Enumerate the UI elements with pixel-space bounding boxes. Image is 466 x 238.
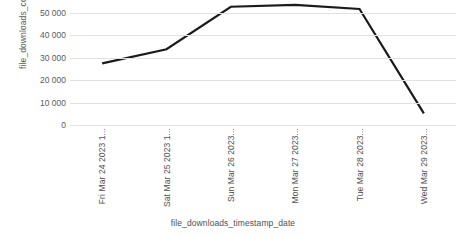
y-axis-tick-label: 0 bbox=[22, 121, 66, 130]
x-axis-tick-label: Wed Mar 29 2023... bbox=[419, 128, 429, 204]
y-axis-tick-label: 40 000 bbox=[22, 31, 66, 40]
x-axis-tick: Sun Mar 26 2023... bbox=[225, 125, 237, 213]
gridline bbox=[70, 35, 456, 36]
x-axis-tick: Wed Mar 29 2023... bbox=[418, 125, 430, 213]
gridline bbox=[70, 80, 456, 81]
y-axis-tick-label: 50 000 bbox=[22, 9, 66, 18]
x-axis-tick: Fri Mar 24 2023 1... bbox=[96, 125, 108, 213]
line-chart: file_downloads_count 010 00020 00030 000… bbox=[0, 0, 466, 238]
y-axis-tick-label: 30 000 bbox=[22, 54, 66, 63]
x-axis-tick-labels: Fri Mar 24 2023 1...Sat Mar 25 2023 1...… bbox=[70, 125, 456, 215]
y-axis-tick-labels: 010 00020 00030 00040 00050 000 bbox=[22, 0, 66, 238]
x-axis-tick-label: Sat Mar 25 2023 1... bbox=[162, 128, 172, 207]
series-line bbox=[70, 0, 456, 130]
x-axis-tick-label: Sun Mar 26 2023... bbox=[226, 128, 236, 202]
gridline bbox=[70, 13, 456, 14]
x-axis-tick-label: Fri Mar 24 2023 1... bbox=[97, 128, 107, 204]
x-axis-tick: Mon Mar 27 2023... bbox=[289, 125, 301, 213]
x-axis-tick: Sat Mar 25 2023 1... bbox=[161, 125, 173, 213]
x-axis-tick-label: Tue Mar 28 2023... bbox=[355, 128, 365, 201]
x-axis-tick: Tue Mar 28 2023... bbox=[354, 125, 366, 213]
gridline bbox=[70, 103, 456, 104]
x-axis-title: file_downloads_timestamp_date bbox=[0, 218, 466, 228]
y-axis-tick-label: 20 000 bbox=[22, 76, 66, 85]
x-axis-tick-label: Mon Mar 27 2023... bbox=[290, 128, 300, 204]
plot-area bbox=[70, 13, 456, 125]
gridline bbox=[70, 58, 456, 59]
y-axis-tick-label: 10 000 bbox=[22, 98, 66, 107]
